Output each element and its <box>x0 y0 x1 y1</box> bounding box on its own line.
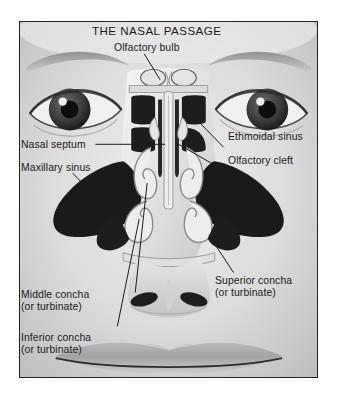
label-ethmoidal-sinus: Ethmoidal sinus <box>228 131 303 143</box>
label-middle-concha-text: Middle concha <box>21 289 89 300</box>
olfactory-bulb-left <box>141 69 166 86</box>
label-superior-concha-text: Superior concha <box>215 275 292 286</box>
label-superior-concha: Superior concha (or turbinate) <box>215 275 292 298</box>
label-inferior-concha-sub: (or turbinate) <box>21 344 91 356</box>
label-maxillary-sinus: Maxillary sinus <box>21 162 91 174</box>
nasal-passage-figure: THE NASAL PASSAGE Olfactory bulb Ethmoid… <box>19 21 318 378</box>
label-middle-concha: Middle concha (or turbinate) <box>21 289 89 312</box>
label-superior-concha-sub: (or turbinate) <box>215 287 292 299</box>
label-middle-concha-sub: (or turbinate) <box>21 301 89 313</box>
label-nasal-septum: Nasal septum <box>21 139 86 151</box>
label-inferior-concha: Inferior concha (or turbinate) <box>21 332 91 355</box>
olfactory-bulb-right <box>171 69 196 86</box>
nasal-septum-structure <box>164 92 173 209</box>
figure-title: THE NASAL PASSAGE <box>92 25 221 37</box>
label-olfactory-cleft: Olfactory cleft <box>228 155 293 167</box>
label-olfactory-bulb: Olfactory bulb <box>114 42 180 54</box>
label-inferior-concha-text: Inferior concha <box>21 332 91 343</box>
anatomy-illustration <box>20 22 317 377</box>
